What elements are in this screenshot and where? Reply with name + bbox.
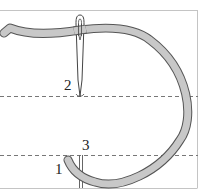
thread	[4, 28, 188, 184]
stitch-diagram	[0, 0, 208, 194]
label-3: 3	[82, 138, 90, 153]
needle-icon	[74, 15, 86, 96]
label-2: 2	[64, 78, 72, 93]
label-1: 1	[55, 162, 63, 177]
